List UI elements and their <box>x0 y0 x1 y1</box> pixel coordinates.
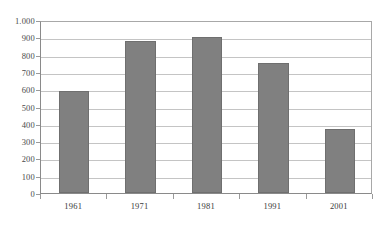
x-axis-tick-label: 1991 <box>239 202 305 211</box>
y-axis-tick-label: 500 <box>1 104 35 113</box>
x-axis-tick-label: 1981 <box>173 202 239 211</box>
x-axis-tick-mark <box>40 194 41 199</box>
x-axis-tick-mark <box>372 194 373 199</box>
x-axis-tick-label: 1961 <box>40 202 106 211</box>
y-axis-tick-label: 1.000 <box>1 17 35 26</box>
y-axis-tick-label: 400 <box>1 121 35 130</box>
y-axis-tick-label: 0 <box>1 190 35 199</box>
plot-area <box>40 21 372 194</box>
y-axis-tick-label: 200 <box>1 155 35 164</box>
caption-strip <box>6 224 376 229</box>
y-axis-tick-label: 800 <box>1 52 35 61</box>
bar <box>59 91 90 193</box>
x-axis-tick-label: 1971 <box>106 202 172 211</box>
bar <box>258 63 289 193</box>
y-axis-tick-label: 300 <box>1 138 35 147</box>
x-axis-tick-label: 2001 <box>306 202 372 211</box>
bar-chart-figure: 01002003004005006007008009001.000 196119… <box>0 0 386 229</box>
x-axis-tick-mark <box>239 194 240 199</box>
bar <box>192 37 223 193</box>
y-axis-tick-label: 600 <box>1 86 35 95</box>
x-axis-tick-mark <box>173 194 174 199</box>
x-axis-tick-mark <box>306 194 307 199</box>
y-axis-tick-label: 100 <box>1 173 35 182</box>
bar <box>325 129 356 193</box>
x-axis-tick-mark <box>106 194 107 199</box>
bar <box>125 41 156 193</box>
y-axis-tick-label: 900 <box>1 34 35 43</box>
y-axis-tick-label: 700 <box>1 69 35 78</box>
